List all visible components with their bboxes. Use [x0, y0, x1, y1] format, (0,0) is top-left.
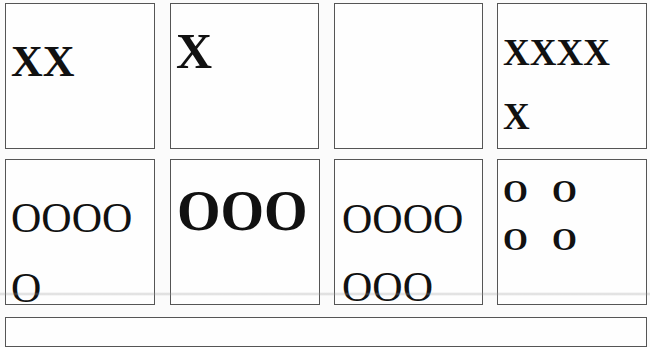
tile-text: X	[503, 98, 530, 135]
tile-text: XXXX	[503, 34, 610, 71]
tile-r1-c3[interactable]	[334, 3, 483, 149]
tile-text: OOOO	[342, 198, 463, 240]
tile-text: OOO	[177, 183, 308, 239]
tile-r2-c1[interactable]: OOOO O	[5, 159, 155, 305]
tile-r2-c2[interactable]: OOO	[170, 159, 320, 305]
tile-text: O	[11, 267, 41, 305]
tile-text: XX	[11, 40, 75, 84]
tile-text: O O	[503, 175, 577, 207]
tile-text: OOOO	[11, 197, 132, 239]
bottom-panel	[5, 317, 647, 347]
tile-r1-c2[interactable]: X	[170, 3, 319, 149]
tile-text: O O	[503, 223, 577, 255]
tile-r1-c4[interactable]: XXXX X	[497, 3, 647, 149]
tile-text: X	[176, 26, 212, 76]
tile-r1-c1[interactable]: XX	[5, 3, 155, 149]
tile-r2-c4[interactable]: O O O O	[497, 159, 647, 305]
tile-text: OOO	[342, 266, 433, 305]
tile-r2-c3[interactable]: OOOO OOO	[334, 159, 483, 305]
